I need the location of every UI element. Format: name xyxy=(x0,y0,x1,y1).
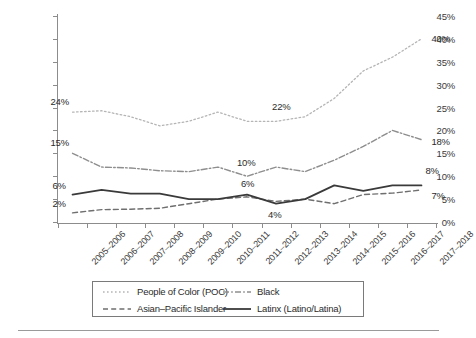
chart-legend: People of Color (POC)BlackAsian–Pacific … xyxy=(92,281,364,317)
point-annotation: 24% xyxy=(51,96,69,107)
legend-swatch-solid-icon xyxy=(223,305,251,313)
series-line xyxy=(73,39,422,126)
point-annotation: 15% xyxy=(51,137,69,148)
legend-item[interactable]: Asian–Pacific Islander xyxy=(103,300,223,317)
point-annotation: 4% xyxy=(268,209,281,220)
legend-swatch-dash-dot-icon xyxy=(223,288,251,296)
point-annotation: 10% xyxy=(237,157,255,168)
legend-swatch-dotted-icon xyxy=(103,288,131,296)
legend-item[interactable]: Black xyxy=(223,283,375,300)
legend-item[interactable]: Latinx (Latino/Latina) xyxy=(223,300,375,317)
footer-rule xyxy=(18,330,439,331)
point-annotation: 18% xyxy=(431,136,449,147)
point-annotation: 40% xyxy=(431,33,449,44)
point-annotation: 22% xyxy=(272,101,290,112)
legend-label: Asian–Pacific Islander xyxy=(137,303,226,314)
legend-label: Latinx (Latino/Latina) xyxy=(257,303,341,314)
point-annotation: 8% xyxy=(425,165,438,176)
point-annotation: 6% xyxy=(241,178,254,189)
point-annotation: 7% xyxy=(431,190,444,201)
legend-label: People of Color (POC) xyxy=(137,286,228,297)
point-annotation: 2% xyxy=(53,198,66,209)
legend-swatch-dashed-icon xyxy=(103,305,131,313)
legend-label: Black xyxy=(257,286,279,297)
series-line xyxy=(73,130,422,176)
legend-item[interactable]: People of Color (POC) xyxy=(103,283,223,300)
point-annotation: 6% xyxy=(53,180,66,191)
